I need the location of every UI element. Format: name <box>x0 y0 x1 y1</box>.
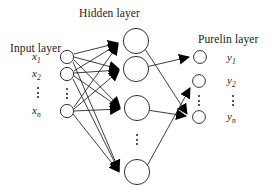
output-node-yn <box>193 111 206 124</box>
output-layer-nodes <box>193 51 207 124</box>
input-label-x1: x1 <box>32 50 41 65</box>
output-label-yn-sub: n <box>232 116 236 125</box>
input-layer-nodes <box>60 50 73 117</box>
output-label-yn: yn <box>227 110 236 125</box>
neural-network-diagram: Input layer Hidden layer Purelin layer x… <box>0 0 276 195</box>
edges-input-to-hidden <box>73 43 120 172</box>
hidden-layer-title: Hidden layer <box>79 7 140 19</box>
output-layer-title: Purelin layer <box>198 33 258 45</box>
output-label-ellipsis <box>230 95 236 106</box>
input-label-x1-sub: 1 <box>37 56 41 65</box>
input-node-x1 <box>60 50 73 63</box>
hidden-node-1 <box>123 28 148 53</box>
hidden-layer-nodes <box>123 28 149 184</box>
output-label-y1-sub: 1 <box>232 57 236 66</box>
input-node-xn <box>60 104 73 117</box>
hidden-node-4 <box>124 159 149 184</box>
input-node-ellipsis <box>64 88 70 99</box>
input-label-x2: x2 <box>32 67 41 82</box>
hidden-node-3 <box>124 95 149 120</box>
output-node-y2 <box>193 75 206 88</box>
input-node-x2 <box>60 67 73 80</box>
input-label-xn: xn <box>32 104 41 119</box>
output-label-y2-sub: 2 <box>232 80 236 89</box>
output-node-ellipsis <box>196 95 202 106</box>
edges-hidden-to-output <box>145 49 190 166</box>
output-label-y1: y1 <box>227 51 236 66</box>
output-node-y1 <box>194 51 207 64</box>
output-label-y2: y2 <box>227 74 236 89</box>
input-label-x2-sub: 2 <box>37 73 41 82</box>
hidden-node-ellipsis <box>134 134 140 145</box>
hidden-node-2 <box>123 56 148 81</box>
input-label-xn-sub: n <box>37 110 41 119</box>
input-label-ellipsis <box>35 87 41 98</box>
